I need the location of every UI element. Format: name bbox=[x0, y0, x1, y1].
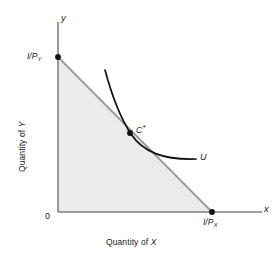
origin-label: 0 bbox=[45, 212, 50, 221]
optimum-point-label-text: C bbox=[136, 125, 142, 135]
x-intercept-label-text: I/P bbox=[203, 217, 213, 227]
y-intercept-label-subscript: Y bbox=[37, 55, 41, 62]
y-axis-title: Quantity of Y bbox=[18, 122, 27, 172]
optimum-point-dot bbox=[127, 130, 133, 136]
y-intercept-label-text: I/P bbox=[27, 51, 37, 61]
optimum-point-label-superscript: * bbox=[143, 123, 146, 132]
y-intercept-label: I/PY bbox=[27, 52, 42, 61]
optimum-point-label: C* bbox=[136, 126, 145, 135]
x-intercept-label: I/PX bbox=[203, 218, 218, 227]
x-axis-title-variable: X bbox=[151, 237, 157, 247]
y-axis-tip-label: y bbox=[61, 13, 66, 23]
x-axis-tip-label: x bbox=[264, 204, 269, 214]
y-axis-title-variable: Y bbox=[17, 122, 27, 128]
budget-constraint-figure: y x 0 I/PY I/PX C* U Quantity of X Quant… bbox=[0, 0, 276, 257]
x-axis-title-text: Quantity of bbox=[106, 237, 151, 247]
y-intercept-dot bbox=[55, 54, 61, 60]
x-intercept-label-subscript: X bbox=[213, 221, 217, 228]
indifference-curve-label: U bbox=[200, 153, 207, 162]
y-axis-title-text: Quantity of bbox=[17, 127, 27, 172]
x-axis-title: Quantity of X bbox=[106, 238, 156, 247]
x-intercept-dot bbox=[209, 209, 215, 215]
